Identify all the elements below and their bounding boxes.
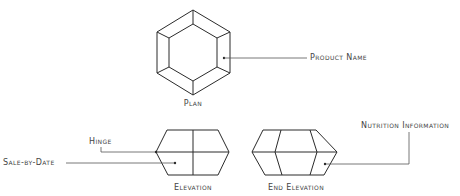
product-name-label: Product Name [310, 53, 367, 63]
sale-by-date-label: Sale-by-Date [3, 158, 55, 168]
elevation-view-label: Elevation [174, 183, 212, 193]
plan-view [157, 10, 230, 95]
plan-inner-hexagon [169, 24, 217, 81]
plan-bevel-bottom-right [217, 67, 230, 73]
nutrition-information-leader [324, 132, 409, 165]
plan-bevel-top-right [217, 32, 230, 38]
product-name-leader [223, 57, 307, 59]
hinge-leader [101, 147, 157, 153]
plan-bevel-bottom-left [157, 67, 169, 73]
plan-view-label: Plan [184, 99, 203, 109]
end-elevation-view-label: End Elevation [268, 183, 324, 193]
nutrition-information-label: Nutrition Information [361, 121, 449, 131]
hinge-label: Hinge [89, 137, 112, 147]
plan-bevel-top-left [157, 32, 169, 38]
end-elevation-view [252, 130, 337, 175]
sale-by-date-leader [66, 162, 176, 164]
elevation-view [156, 130, 229, 175]
package-technical-drawing [0, 0, 460, 196]
